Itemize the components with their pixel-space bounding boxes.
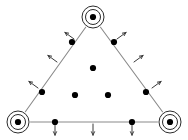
diagram-canvas [0, 0, 188, 140]
triangle-lattice-diagram [0, 0, 188, 140]
bottom-edge-right-dot [129, 119, 135, 125]
right-edge-arrow-1 [117, 33, 126, 39]
left-edge-arrow-3 [29, 82, 38, 88]
right-edge-upper-dot [111, 39, 117, 45]
right-edge [93, 17, 170, 122]
interior-bottom-left-dot [72, 92, 78, 98]
right-edge-arrow-3-head-1 [157, 82, 161, 83]
right-edge-lower-dot [143, 89, 149, 95]
right-edge-arrow-3 [152, 82, 161, 88]
bottom-left-vertex-dot [15, 119, 21, 125]
interior-bottom-right-dot [105, 92, 111, 98]
left-edge-arrow-2 [48, 56, 57, 62]
left-edge-lower-dot [39, 89, 45, 95]
left-edge-arrow-1 [65, 33, 74, 39]
left-edge [18, 17, 93, 122]
boundary-arrows-group [29, 33, 161, 135]
right-edge-arrow-2-head-1 [139, 56, 143, 57]
bottom-edge-arrow-1 [53, 124, 56, 135]
lattice-dots-group [15, 14, 173, 125]
bottom-edge-left-dot [52, 119, 58, 125]
right-edge-arrow-1-head-1 [122, 33, 126, 34]
interior-top-dot [90, 65, 96, 71]
left-edge-upper-dot [69, 39, 75, 45]
bottom-edge-arrow-3 [130, 124, 133, 135]
top-vertex-dot [90, 14, 96, 20]
bottom-edge-arrow-2 [91, 124, 94, 135]
right-edge-arrow-2 [134, 56, 143, 62]
bottom-right-vertex-dot [167, 119, 173, 125]
